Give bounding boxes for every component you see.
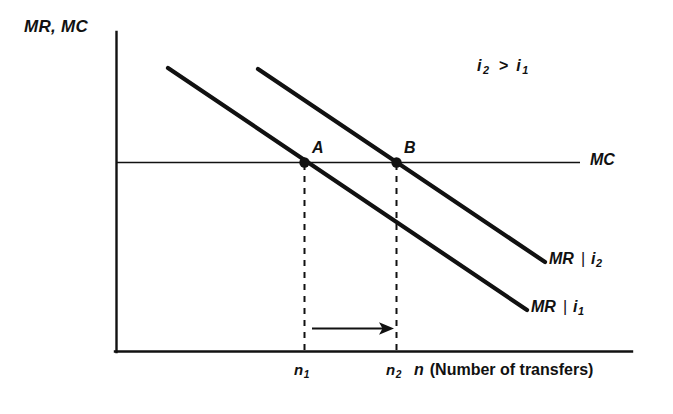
mr-curve-i2-label: MR|i2 — [549, 251, 602, 269]
mr-curve-i2-subscript: 2 — [596, 257, 603, 269]
point-a-label: A — [312, 140, 324, 156]
x-tick-label-n1: n1 — [294, 362, 309, 380]
mr-curve-i1-text: MR — [531, 298, 556, 315]
mr-curve-i1-separator: | — [556, 299, 573, 315]
x-tick-label-n2: n2 — [386, 362, 401, 380]
diagram-canvas — [0, 0, 673, 414]
mc-curve-label: MC — [590, 152, 615, 168]
inequality-right-subscript: 1 — [522, 64, 530, 76]
mr-curve-i2-var: i — [591, 250, 595, 267]
inequality-operator: > — [490, 57, 516, 74]
x-axis-title-variable: n — [414, 361, 424, 378]
x-tick-n2-subscript: 2 — [395, 369, 401, 380]
x-tick-n2-var: n — [386, 361, 395, 378]
x-axis-title: n(Number of transfers) — [414, 362, 593, 378]
mr-curve-i1 — [168, 68, 527, 310]
x-axis-title-description: (Number of transfers) — [424, 361, 594, 378]
shift-arrow — [312, 322, 394, 335]
mr-curve-i2-text: MR — [549, 250, 574, 267]
equilibrium-point-a — [299, 157, 309, 167]
y-axis-title: MR, MC — [24, 18, 88, 35]
inequality-right-var: i — [516, 57, 521, 74]
inequality-annotation: i2>i1 — [477, 58, 529, 76]
point-b-label: B — [404, 140, 416, 156]
x-tick-n1-var: n — [294, 361, 303, 378]
mr-curve-i1-subscript: 1 — [578, 305, 585, 317]
mr-curve-i1-var: i — [573, 298, 577, 315]
x-tick-n1-subscript: 1 — [303, 369, 309, 380]
mr-curve-i1-label: MR|i1 — [531, 299, 584, 317]
mr-curve-i2-separator: | — [574, 251, 591, 267]
inequality-left-subscript: 2 — [482, 64, 490, 76]
equilibrium-point-b — [391, 157, 401, 167]
economics-diagram: MR, MC A B i2>i1 MC MR|i2 MR|i1 n1 n2 n(… — [0, 0, 673, 414]
